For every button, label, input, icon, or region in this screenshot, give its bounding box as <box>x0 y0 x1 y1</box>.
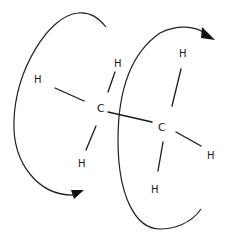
left-rotation-arc <box>14 13 106 195</box>
left-rotation-arrow <box>14 13 106 199</box>
right-arrowhead-icon <box>201 27 215 40</box>
bond-right-c-h-top <box>172 69 181 106</box>
left-arrowhead-icon <box>71 190 84 199</box>
ethane-rotation-diagram: C C H H H H H H <box>0 0 228 237</box>
carbon-right-label: C <box>158 121 166 134</box>
bond-left-c-h-bottom <box>86 126 96 150</box>
hydrogen-left-bottom-label: H <box>78 158 86 169</box>
bond-left-c-h-upper <box>55 88 84 101</box>
bond-c-c <box>108 112 152 122</box>
hydrogen-right-top-label: H <box>179 48 187 59</box>
hydrogen-right-side-label: H <box>207 150 215 161</box>
hydrogen-left-top-label: H <box>114 58 122 69</box>
bond-right-c-h-side <box>176 132 201 146</box>
right-rotation-arrow <box>118 27 215 229</box>
bond-left-c-h-top <box>108 72 115 92</box>
hydrogen-left-upper-label: H <box>34 74 42 85</box>
carbon-left-label: C <box>97 102 105 115</box>
hydrogen-right-bottom-label: H <box>151 184 159 195</box>
bond-right-c-h-bottom <box>158 142 163 171</box>
